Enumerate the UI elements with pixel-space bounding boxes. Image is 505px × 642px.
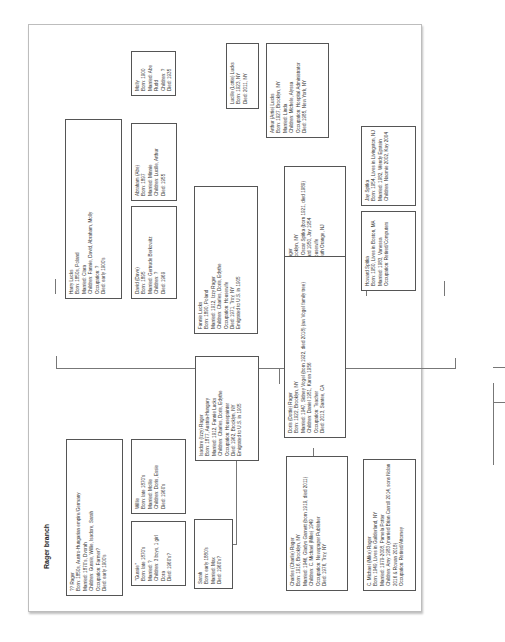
person-box-isadore: Isadore (Izzy) RagerBorn: 1877, Austria-…	[195, 356, 259, 461]
person-box-jay: Jay SpitkaBorn: 1954, Lives in Livingsto…	[361, 126, 416, 206]
person-box-abraham: Abraham (Abe)Born: 1897Married: MinnieCh…	[131, 123, 177, 201]
person-box-c-michael: C. Michael (Mike) RagerBorn: 1949, Lives…	[363, 459, 416, 591]
person-detail: Died: 1969	[161, 210, 167, 294]
connector	[455, 358, 456, 369]
connector	[236, 447, 237, 545]
person-detail: Died: 1935	[167, 55, 173, 91]
person-box-lucille: Lucille (Lottie) LucksBorn: 1923, NYDied…	[226, 43, 259, 109]
person-detail: Died: early 1900's	[101, 123, 107, 294]
person-detail: Died: 2011, NY	[243, 47, 249, 104]
person-detail: Died: 2013, Santee, CA	[320, 260, 326, 433]
person-detail: Died: 1955	[161, 127, 167, 196]
connector	[493, 383, 494, 465]
person-box-harry-lucks: Harry LucksBorn: 1850s, PolandMarried: C…	[65, 119, 122, 299]
person-box-david: David (Dave)Born: 1895Married: Gertrude …	[131, 206, 177, 299]
person-box-arthur: Arthur (Artie) LucksBorn: 1927, Brooklyn…	[266, 43, 329, 138]
person-box-charles: Charles (Charlie) RagerBorn: 1916, Brook…	[286, 456, 348, 591]
person-detail: Children: Amy 1983 (married Brian Carrol…	[386, 463, 399, 586]
person-detail: Died: 1960's	[161, 443, 167, 509]
connector	[279, 369, 280, 384]
person-box-howard: Howard SpitkaBorn: 1950, Lives in Boston…	[361, 211, 416, 291]
connector	[56, 356, 57, 369]
person-detail: Emigrated to U.S. in 1905	[237, 360, 243, 456]
person-detail: Children: Naomie 2002, Kay 2004	[384, 130, 390, 201]
person-detail: Children: 3 boys, 1 girl Dora	[154, 525, 167, 581]
person-detail: Born: 1954, Lives in Livingston, NJ	[371, 130, 377, 201]
person-detail: Died: 1976, Troy, NY	[322, 460, 328, 586]
person-detail: Died: early 1900's	[102, 443, 108, 591]
connector	[444, 281, 445, 296]
connector	[493, 402, 505, 403]
person-detail: Died: 1985, New York, NY	[302, 47, 308, 133]
person-detail: Died: 1960's?	[217, 523, 223, 584]
connector	[493, 367, 505, 368]
person-detail: Emigrated to U.S. in 1905	[236, 190, 242, 329]
person-box-gussie: "Gussie"Born: late 1870'sMarried: ?Child…	[131, 521, 186, 586]
person-detail: Died: 1960's?	[167, 525, 173, 581]
person-detail: Born: 1950, Lives in Boston, MA	[371, 215, 377, 286]
person-box-willie: WillieBorn: late 1870'sMarried: MollieCh…	[131, 439, 186, 514]
document-title: Rager branch	[43, 524, 50, 569]
person-detail: Married: Abe Rudd	[148, 55, 161, 91]
connector	[55, 279, 56, 294]
person-box-molly: MollyBorn: 1900Married: Abe RuddChildren…	[131, 51, 176, 96]
document-page: Rager branch ?? RagerBorn: 1850s, Austro…	[28, 24, 422, 612]
person-detail: Occupation: Retired/Attorney	[399, 463, 405, 586]
person-detail: Occupation: Retired/Computers	[384, 215, 390, 286]
person-box-fannie: Fannie LucksBorn: 1890, PolandMarried: 1…	[194, 186, 258, 334]
person-box-sarah: SarahBorn: early 1880'sMarried: MaxDied:…	[194, 519, 233, 589]
person-box-rager-patriarch: ?? RagerBorn: 1850s, Austro-Hungarian em…	[66, 439, 123, 596]
rotated-content: Rager branch ?? RagerBorn: 1850s, Austro…	[29, 25, 423, 613]
person-box-doris: Doris (Dottie) RagerBorn: 1922, Brooklyn…	[284, 256, 346, 438]
